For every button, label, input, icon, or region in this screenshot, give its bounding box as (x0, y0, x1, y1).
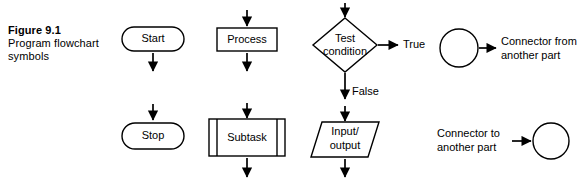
connector-from-description-line-2: another part (501, 49, 560, 61)
subtask-label: Subtask (227, 131, 267, 143)
flowchart-symbols-diagram: Start Stop Process Subtask Test conditio… (0, 0, 580, 184)
input-output-label-line-1: Input/ (331, 125, 359, 137)
connector-to-description-line-1: Connector to (437, 127, 500, 139)
start-label: Start (141, 32, 164, 44)
connector-from-description-line-1: Connector from (501, 35, 577, 47)
stop-label: Stop (142, 129, 165, 141)
true-branch-label: True (403, 38, 425, 50)
process-label: Process (227, 33, 267, 45)
test-condition-label-line-2: condition (323, 45, 367, 57)
test-condition-label-line-1: Test (335, 32, 355, 44)
connector-from-circle (440, 29, 478, 67)
connector-to-description-line-2: another part (437, 141, 496, 153)
false-branch-label: False (352, 85, 379, 97)
connector-to-circle (533, 123, 569, 159)
figure-container: Figure 9.1 Program flowchart symbols Sta… (0, 0, 580, 184)
input-output-label-line-2: output (330, 139, 361, 151)
